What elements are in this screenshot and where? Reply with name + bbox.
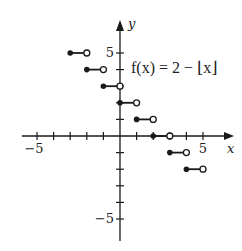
- y-tick-label: −5: [95, 211, 114, 226]
- closed-endpoint-icon: [84, 67, 90, 73]
- x-tick-label: −5: [24, 141, 43, 156]
- chart-container: −555−5xy f(x) = 2 − ⌊x⌋: [0, 0, 242, 251]
- open-endpoint-icon: [167, 133, 173, 139]
- open-endpoint-icon: [117, 83, 123, 89]
- open-endpoint-icon: [200, 166, 206, 172]
- x-tick-label: 5: [199, 141, 207, 156]
- closed-endpoint-icon: [101, 83, 107, 89]
- plot-area: −555−5xy: [0, 0, 242, 251]
- closed-endpoint-icon: [184, 166, 190, 172]
- closed-endpoint-icon: [167, 150, 173, 156]
- open-endpoint-icon: [183, 150, 189, 156]
- closed-endpoint-icon: [117, 100, 123, 106]
- closed-endpoint-icon: [67, 50, 73, 56]
- open-endpoint-icon: [134, 100, 140, 106]
- closed-endpoint-icon: [150, 133, 156, 139]
- closed-endpoint-icon: [134, 117, 140, 123]
- y-axis-arrow-icon: [116, 20, 124, 31]
- open-endpoint-icon: [84, 50, 90, 56]
- function-annotation: f(x) = 2 − ⌊x⌋: [131, 58, 218, 77]
- open-endpoint-icon: [100, 67, 106, 73]
- y-tick-label: 5: [106, 45, 114, 60]
- x-axis-label: x: [227, 141, 235, 156]
- open-endpoint-icon: [150, 116, 156, 122]
- x-axis-arrow-icon: [224, 132, 234, 140]
- y-axis-label: y: [127, 16, 136, 31]
